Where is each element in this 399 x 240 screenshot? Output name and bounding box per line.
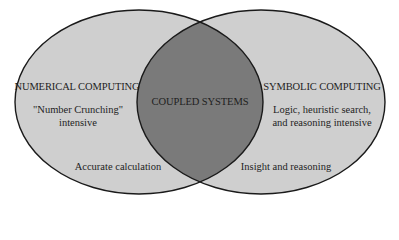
left-set-footer: Accurate calculation bbox=[75, 160, 162, 173]
right-set-description-line2: and reasoning intensive bbox=[272, 116, 371, 129]
overlap-title: COUPLED SYSTEMS bbox=[152, 95, 249, 108]
left-set-title: NUMERICAL COMPUTING bbox=[14, 80, 139, 93]
right-set-footer: Insight and reasoning bbox=[241, 160, 331, 173]
left-set-description-line2: intensive bbox=[59, 116, 97, 129]
right-set-title: SYMBOLIC COMPUTING bbox=[263, 80, 381, 93]
left-set-description-line1: "Number Crunching" bbox=[33, 103, 123, 116]
right-set-description-line1: Logic, heuristic search, bbox=[273, 103, 371, 116]
